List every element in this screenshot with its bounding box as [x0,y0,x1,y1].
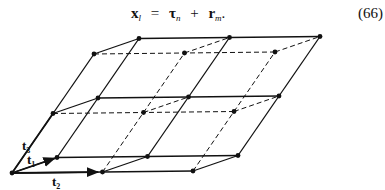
edge-t1 [234,96,279,112]
lattice-point [96,96,101,101]
edge-t1 [53,98,98,114]
lattice-point [318,34,323,39]
lattice-point [92,52,97,57]
label-t1: t1 [27,152,35,169]
lattice-point [191,169,196,174]
lattice-point [141,110,146,115]
lattice-points [10,34,323,175]
vector-labels: t3 t1 t2 [22,138,60,190]
edge-t1 [144,97,189,113]
edge-t1 [193,156,238,172]
lattice-point [236,153,241,158]
lattice-point [55,155,60,160]
lattice-edges [12,37,320,174]
vector-t2-arrow [12,172,98,173]
lattice-point [273,50,278,55]
lattice-point [100,170,105,175]
edge-t1 [103,157,148,173]
lattice-point [277,94,282,99]
edge-t1 [94,39,139,55]
lattice-point [137,36,142,41]
lattice-point [182,51,187,56]
lattice-point [227,35,232,40]
edge-t1 [185,38,230,54]
label-t2: t2 [52,174,60,190]
lattice-point [145,154,150,159]
lattice-point [232,109,237,114]
edge-t1 [275,37,320,53]
lattice-point [186,95,191,100]
lattice-diagram: t3 t1 t2 [0,0,385,190]
